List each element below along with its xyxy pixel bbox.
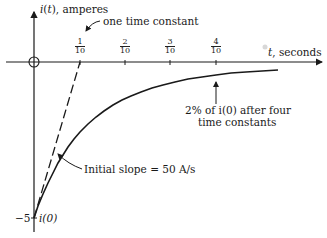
faint-smudge: [263, 45, 268, 50]
x-tick-label-4: 410: [209, 38, 223, 55]
initial-value-label: i(0): [39, 212, 57, 224]
annotation-initial-slope: Initial slope = 50 A/s: [84, 163, 196, 175]
annotation-time-constant: one time constant: [103, 15, 199, 27]
x-tick-label-1: 110: [73, 38, 87, 55]
annotation-four-tau-line2: time constants: [198, 116, 276, 128]
y-tick-label-minus5: −5: [15, 212, 30, 224]
plot-canvas: [0, 0, 327, 238]
x-axis-label: t, seconds: [268, 46, 322, 58]
x-tick-label-3: 310: [163, 38, 177, 55]
annotation-four-tau-line1: 2% of i(0) after four: [185, 104, 291, 116]
time-constant-leader: [86, 21, 100, 31]
x-tick-label-2: 210: [118, 38, 132, 55]
y-axis-label: i(t), amperes: [40, 3, 108, 15]
